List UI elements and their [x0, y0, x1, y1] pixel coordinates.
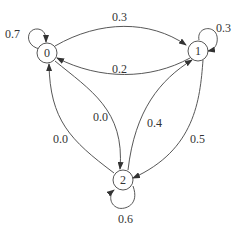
edge-label-2-0: 0.0: [53, 132, 68, 146]
edge-2-1: 0.4: [128, 60, 192, 170]
edge-label-0-0: 0.7: [5, 27, 20, 41]
node-label-1: 1: [195, 44, 201, 58]
edge-label-1-2: 0.5: [190, 132, 205, 146]
markov-chain-diagram: 0.7 0.3 0.3 0.2 0.0 0.0 0.4 0.5 0.6: [0, 0, 241, 233]
edge-2-2: 0.6: [111, 186, 135, 226]
edge-0-1: 0.3: [55, 10, 186, 46]
edge-label-0-2: 0.0: [93, 110, 108, 124]
edge-label-1-0: 0.2: [112, 62, 127, 76]
node-0: 0: [37, 43, 57, 63]
node-1: 1: [188, 41, 208, 61]
edge-label-2-1: 0.4: [147, 116, 162, 130]
edge-label-0-1: 0.3: [112, 10, 127, 24]
edge-label-1-1: 0.3: [216, 21, 231, 35]
edge-1-0: 0.2: [57, 58, 190, 76]
node-label-0: 0: [44, 46, 50, 60]
edge-label-2-2: 0.6: [118, 212, 133, 226]
node-2: 2: [113, 170, 133, 190]
node-label-2: 2: [120, 173, 126, 187]
edge-0-2: 0.0: [55, 61, 120, 169]
